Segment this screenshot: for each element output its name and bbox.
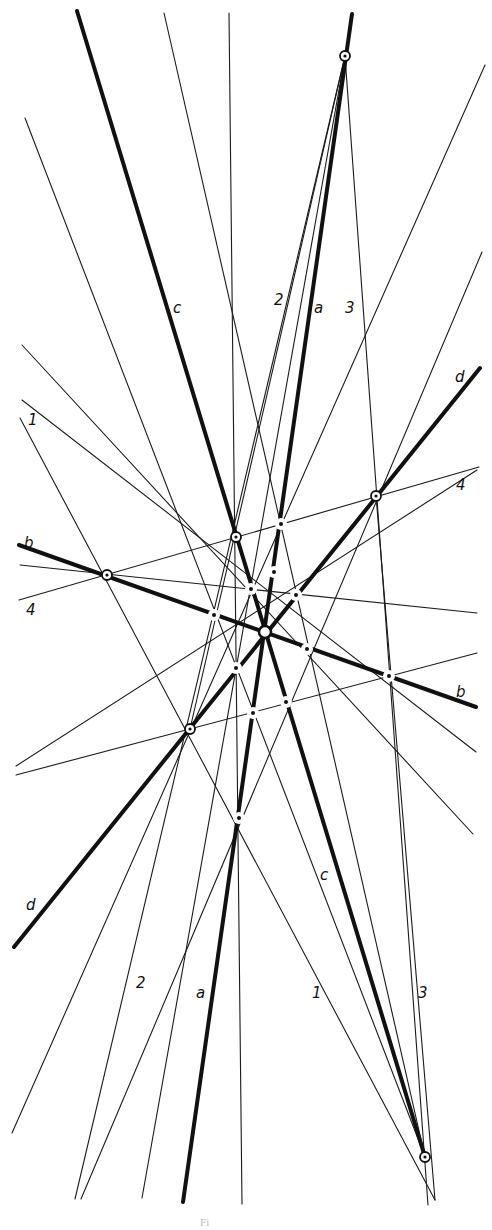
intersection-point [212, 613, 216, 617]
construction-line [81, 252, 482, 1199]
vertex-dot [343, 54, 346, 57]
figure-caption: Fi [200, 1218, 209, 1228]
line-d [14, 368, 480, 947]
line-label-1: 1 [312, 984, 322, 1002]
intersection-point [237, 816, 241, 820]
line-label-2: 2 [274, 291, 284, 309]
vertex-dot [374, 494, 377, 497]
line-a [183, 14, 352, 1202]
diagram-canvas: c2a3d14b4bcd2a13 [0, 0, 492, 1230]
intersection-point [249, 587, 253, 591]
vertex-dot [423, 1155, 426, 1158]
line-labels-group: c2a3d14b4bcd2a13 [24, 291, 466, 1002]
line-label-b: b [456, 683, 466, 701]
line-label-d: d [26, 896, 36, 914]
construction-line [229, 13, 242, 1204]
intersection-point [272, 570, 276, 574]
line-label-a: a [314, 299, 323, 317]
vertex-dot [234, 535, 237, 538]
center-vertex-O [259, 626, 271, 638]
line-label-c: c [173, 299, 182, 317]
line-label-a: a [196, 984, 205, 1002]
line-label-b: b [24, 534, 34, 552]
vertex-dot [105, 573, 108, 576]
line-label-3: 3 [345, 299, 355, 317]
line-label-3: 3 [418, 984, 428, 1002]
line-label-1: 1 [28, 411, 38, 429]
intersection-point [234, 666, 238, 670]
projective-line-diagram: c2a3d14b4bcd2a13 Fi [0, 0, 492, 1230]
line-label-2: 2 [136, 974, 146, 992]
vertex-dot [188, 727, 191, 730]
intersection-point [305, 647, 309, 651]
construction-line [25, 118, 425, 1157]
line-1 [20, 418, 435, 1200]
intersection-point [294, 593, 298, 597]
intersection-point [284, 700, 288, 704]
thin-lines-group [12, 13, 485, 1205]
construction-line [16, 470, 477, 766]
intersection-points-group [208, 518, 395, 824]
line-label-d: d [455, 368, 465, 386]
line-label-4: 4 [456, 476, 466, 494]
line-label-c: c [320, 866, 329, 884]
line-label-4: 4 [26, 601, 36, 619]
intersection-point [387, 674, 391, 678]
intersection-point [251, 711, 255, 715]
intersection-point [279, 522, 283, 526]
